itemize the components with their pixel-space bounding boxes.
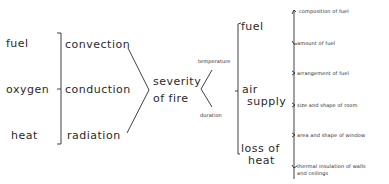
detail-tick-5 (292, 133, 295, 137)
label-factor-fuel: fuel (241, 21, 264, 32)
label-composition-of-fuel: composition of fuel (299, 9, 349, 14)
label-of-fire: of fire (153, 93, 189, 104)
label-factor-supply: supply (247, 96, 286, 107)
label-duration: duration (200, 113, 222, 118)
detail-tick-3 (292, 71, 295, 75)
converge-line-bottom (127, 90, 149, 133)
label-factor-heat: heat (248, 155, 275, 166)
label-severity: severity (153, 76, 201, 87)
label-temperature: temperature (198, 59, 231, 64)
bracket-heat-transfer (57, 33, 61, 144)
label-heat: heat (11, 130, 38, 141)
label-arrangement-of-fuel: arrangement of fuel (297, 71, 349, 76)
label-factor-air: air (242, 84, 258, 95)
detail-tick-4 (292, 103, 295, 107)
label-oxygen: oxygen (6, 84, 49, 95)
converge-line-top (128, 48, 149, 90)
label-convection: convection (65, 39, 130, 50)
label-conduction: conduction (65, 84, 131, 95)
diverge-line-top (201, 70, 212, 89)
label-factor-loss-of: loss of (241, 143, 280, 154)
diverge-line-bottom (201, 89, 212, 107)
label-fuel: fuel (6, 38, 29, 49)
diagram-lines (0, 0, 389, 184)
label-size-shape-room: size and shape of room (297, 103, 358, 108)
label-thermal-insulation: thermal insulation of walls (297, 164, 366, 169)
label-area-shape-window: area and shape of window (297, 133, 365, 138)
label-amount-of-fuel: amount of fuel (297, 41, 335, 46)
label-and-ceilings: and ceilings (297, 171, 328, 176)
label-radiation: radiation (67, 130, 121, 141)
